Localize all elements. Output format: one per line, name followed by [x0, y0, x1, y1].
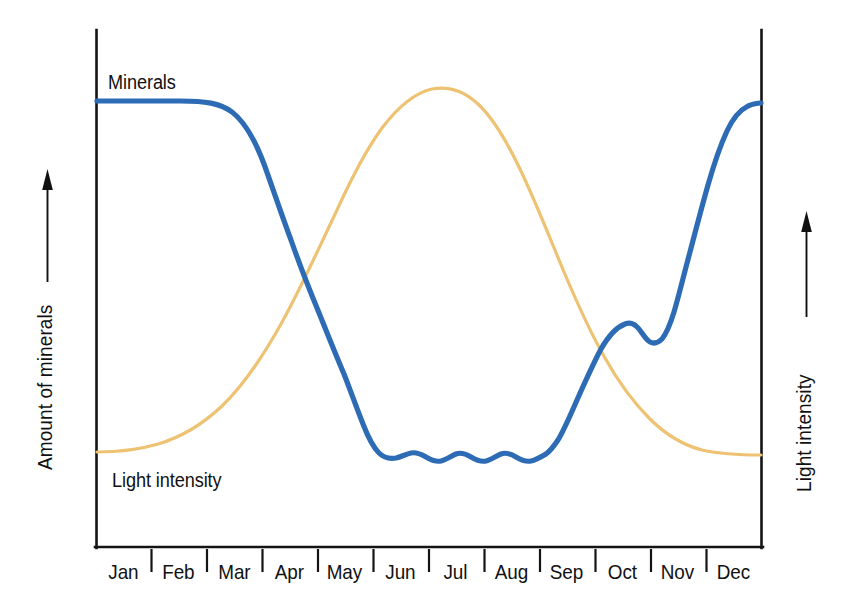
series-label-minerals: Minerals	[108, 72, 176, 92]
series-line-minerals	[97, 101, 761, 461]
x-label-sep: Sep	[543, 561, 590, 582]
x-label-feb: Feb	[155, 561, 202, 582]
x-label-jan: Jan	[100, 561, 147, 582]
x-label-oct: Oct	[599, 561, 646, 582]
series-label-light-intensity: Light intensity	[112, 470, 222, 490]
chart-figure: Minerals Light intensity Amount of miner…	[0, 0, 859, 608]
x-label-apr: Apr	[266, 561, 313, 582]
x-label-dec: Dec	[710, 561, 757, 582]
x-label-may: May	[321, 561, 368, 582]
left-axis-title: Amount of minerals	[35, 305, 55, 470]
x-label-jul: Jul	[432, 561, 479, 582]
series-line-light-intensity	[97, 88, 761, 455]
x-label-aug: Aug	[488, 561, 535, 582]
x-label-nov: Nov	[654, 561, 701, 582]
right-axis-arrow-icon	[801, 211, 812, 317]
x-label-mar: Mar	[211, 561, 258, 582]
x-label-jun: Jun	[377, 561, 424, 582]
right-axis-title: Light intensity	[794, 374, 814, 492]
left-axis-arrow-icon	[42, 169, 53, 282]
